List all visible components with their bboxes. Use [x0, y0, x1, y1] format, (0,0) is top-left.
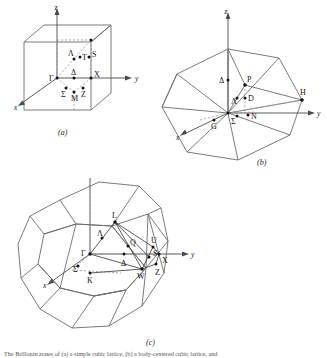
dot-r	[90, 39, 93, 42]
axis-x-arrow-c	[47, 279, 54, 285]
e7	[60, 288, 94, 296]
dot-h	[300, 98, 304, 102]
e6	[60, 224, 76, 288]
facet-lower-left	[38, 264, 60, 309]
panel-a: z y x Γ Λ T S X Δ Σ M Z	[0, 0, 164, 150]
label-lambda-c: Λ	[97, 229, 103, 238]
axis-label-x-b: x	[175, 133, 180, 142]
label-z-point: Z	[81, 90, 86, 99]
label-delta-c: Δ	[121, 259, 126, 268]
dot-s	[88, 56, 91, 59]
axis-label-y-b: y	[316, 109, 321, 118]
panel-b-caption: (b)	[257, 158, 266, 167]
label-d: D	[248, 94, 254, 103]
panel-c: z y x L Λ Γ Q U S X Σ Δ K W Z	[16, 178, 306, 348]
label-n: N	[251, 112, 257, 121]
dot-gamma-c	[88, 252, 91, 255]
label-lambda: Λ	[68, 49, 74, 58]
cube-top-face	[24, 25, 111, 42]
label-p: P	[247, 75, 252, 84]
dot-n	[247, 114, 250, 117]
label-k: K	[87, 276, 93, 285]
label-delta-b: Δ	[219, 76, 224, 85]
label-h: H	[300, 88, 306, 97]
axis-label-z-b: z	[224, 7, 228, 16]
dot-delta-b	[227, 79, 230, 82]
dot-delta-c	[123, 253, 126, 256]
axis-y-arrow-c	[182, 252, 189, 257]
panel-c-caption: (c)	[146, 338, 155, 347]
label-x-c: X	[162, 256, 168, 265]
e5	[76, 224, 112, 226]
axis-x-line-c	[51, 254, 90, 282]
label-lambda-b: Λ	[231, 97, 237, 106]
label-t: T	[82, 53, 87, 62]
dot-d	[244, 97, 247, 100]
e1	[44, 224, 76, 234]
edge-p-top	[228, 49, 245, 85]
facet-left	[21, 234, 44, 278]
axis-label-x-c: x	[42, 281, 47, 290]
label-q: Q	[130, 238, 136, 247]
label-delta: Δ	[71, 68, 76, 77]
label-m: M	[71, 94, 78, 103]
figure-caption: The Brillouin zones of (a) a simple cubi…	[4, 350, 323, 357]
cube-front-face	[24, 42, 91, 110]
e2	[38, 264, 60, 288]
facet-top-right	[112, 208, 161, 226]
e8	[94, 290, 126, 296]
label-g: G	[211, 122, 217, 131]
edge-left-lower	[162, 107, 228, 113]
label-sigma-c: Σ	[73, 265, 78, 274]
label-s: S	[92, 50, 96, 59]
dot-l	[113, 220, 116, 223]
axis-label-y-c: y	[190, 250, 195, 259]
label-u: U	[151, 236, 157, 245]
label-l: L	[112, 211, 117, 220]
dot-k	[89, 272, 92, 275]
dot-s	[148, 256, 151, 259]
axis-label-y: y	[134, 74, 139, 83]
label-gamma: Γ	[49, 74, 54, 83]
label-gamma-c: Γ	[81, 249, 86, 258]
label-sigma-b: Σ	[231, 117, 236, 126]
dot-gamma-b	[227, 112, 230, 115]
dot-x-c	[158, 253, 161, 256]
brillouin-zone-figure: z y x Γ Λ T S X Δ Σ M Z (a)	[0, 0, 327, 358]
label-z-c: Z	[155, 268, 160, 277]
cube-right-face	[91, 25, 111, 110]
dot-gamma	[56, 77, 59, 80]
dot-z-c	[155, 263, 158, 266]
axis-y-arrow-b	[308, 111, 315, 116]
label-s-c: S	[153, 249, 157, 258]
dot-x	[90, 77, 93, 80]
label-w: W	[137, 272, 145, 281]
dot-w	[140, 267, 143, 270]
axis-label-x: x	[13, 103, 18, 112]
edge-lower-left	[187, 113, 228, 152]
facet-top-left	[60, 186, 139, 226]
label-sigma: Σ	[61, 90, 66, 99]
dot-sigma-b	[236, 115, 239, 118]
panel-b: z y x Δ P Λ D H G Σ N	[160, 0, 327, 175]
axis-label-z: z	[54, 3, 58, 12]
panel-a-caption: (a)	[58, 128, 67, 137]
axis-x-line-b	[184, 113, 228, 134]
facet-bottom-left	[60, 288, 94, 328]
axis-y-arrow	[125, 76, 132, 81]
axis-x-arrow-b	[180, 130, 187, 136]
edge-ll	[162, 74, 177, 107]
symmetry-dots-a	[56, 39, 93, 94]
label-x-point: X	[94, 70, 100, 79]
